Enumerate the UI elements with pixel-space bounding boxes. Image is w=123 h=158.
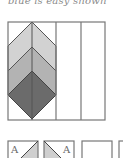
main-panel bbox=[8, 22, 105, 120]
tile-1: A bbox=[8, 141, 38, 158]
quilt-diagram: A A bbox=[0, 0, 123, 158]
tile-1-label: A bbox=[10, 144, 19, 155]
tile-4 bbox=[119, 141, 123, 158]
tile-3 bbox=[82, 141, 112, 158]
tile-2: A bbox=[44, 141, 74, 158]
tile-2-label: A bbox=[62, 144, 71, 155]
